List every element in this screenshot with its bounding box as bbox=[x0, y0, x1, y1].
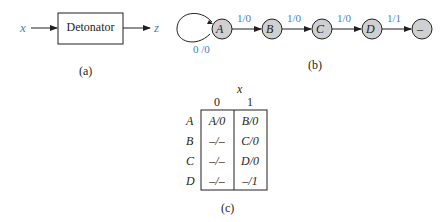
output-z-label: z bbox=[154, 20, 159, 36]
state-C: C bbox=[316, 22, 324, 37]
table-row-state: C bbox=[186, 154, 194, 169]
input-x-label: x bbox=[20, 20, 26, 36]
table-row-state: A bbox=[186, 114, 193, 129]
caption-a: (a) bbox=[79, 64, 92, 79]
state-D: D bbox=[366, 22, 375, 37]
table-cell: C/0 bbox=[230, 134, 270, 149]
self-loop-label: 0 /0 bbox=[193, 43, 210, 55]
table-cell: D/0 bbox=[230, 154, 270, 169]
table-col-1: 1 bbox=[230, 95, 270, 110]
state-A: A bbox=[216, 22, 223, 37]
caption-b: (b) bbox=[308, 58, 322, 73]
transition-C-D-label: 1/0 bbox=[337, 12, 351, 24]
transition-A-B-label: 1/0 bbox=[237, 12, 251, 24]
caption-c: (c) bbox=[221, 201, 234, 216]
transition-B-C-label: 1/0 bbox=[287, 12, 301, 24]
table-row-state: B bbox=[186, 134, 193, 149]
table-row-state: D bbox=[186, 174, 195, 189]
state-B: B bbox=[266, 22, 273, 37]
transition-D-end-label: 1/1 bbox=[387, 12, 401, 24]
state-dontcare: – bbox=[417, 22, 423, 37]
table-cell: –/1 bbox=[230, 174, 270, 189]
table-cell: B/0 bbox=[230, 114, 270, 129]
detonator-block-label: Detonator bbox=[58, 20, 123, 35]
